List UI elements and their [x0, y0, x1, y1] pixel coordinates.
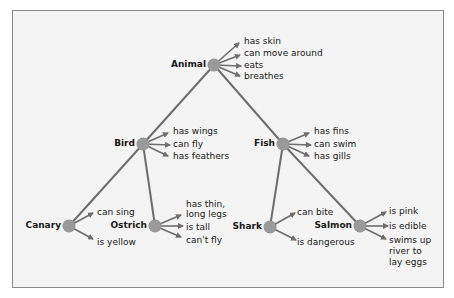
node-canary — [63, 220, 75, 232]
prop-canary-0: can sing — [97, 207, 135, 218]
prop-salmon-0: is pink — [389, 206, 418, 217]
prop-animal-3: breathes — [244, 71, 284, 82]
prop-animal-0: has skin — [244, 36, 281, 47]
edge-fish-shark — [270, 144, 283, 227]
prop-ostrich-3: can't fly — [186, 235, 222, 246]
edge-bird-ostrich — [143, 144, 155, 226]
node-fish — [277, 138, 289, 150]
prop-ostrich-1: long legs — [186, 209, 227, 220]
prop-fish-0: has fins — [314, 126, 349, 137]
prop-salmon-4: lay eggs — [389, 257, 427, 268]
label-bird: Bird — [100, 138, 135, 148]
prop-animal-2: eats — [244, 60, 263, 71]
prop-ostrich-0: has thin, — [186, 199, 225, 210]
prop-fish-1: can swim — [314, 139, 356, 150]
label-salmon: Salmon — [310, 220, 352, 230]
prop-canary-1: is yellow — [97, 237, 136, 248]
prop-ostrich-2: is tall — [186, 222, 210, 233]
prop-bird-0: has wings — [173, 126, 218, 137]
prop-animal-1: can move around — [244, 48, 323, 59]
node-animal — [208, 59, 220, 71]
node-shark — [264, 221, 276, 233]
prop-bird-1: can fly — [173, 139, 203, 150]
prop-shark-1: is dangerous — [297, 237, 355, 248]
label-canary: Canary — [20, 220, 61, 230]
label-animal: Animal — [166, 59, 206, 69]
prop-salmon-3: river to — [389, 246, 422, 257]
node-bird — [137, 138, 149, 150]
node-ostrich — [149, 220, 161, 232]
prop-shark-0: can bite — [297, 207, 333, 218]
prop-fish-2: has gills — [314, 151, 351, 162]
diagram-lines — [0, 0, 454, 298]
node-salmon — [354, 220, 366, 232]
label-fish: Fish — [240, 138, 275, 148]
label-shark: Shark — [224, 221, 262, 231]
label-ostrich: Ostrich — [104, 220, 147, 230]
prop-bird-2: has feathers — [173, 151, 229, 162]
prop-salmon-2: swims up — [389, 235, 431, 246]
prop-salmon-1: is edible — [389, 221, 427, 232]
